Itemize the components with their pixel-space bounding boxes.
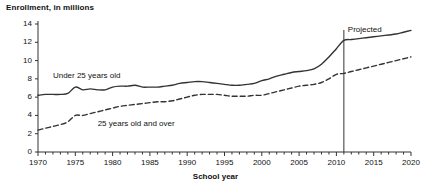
y-tick-label: 2 (14, 129, 32, 138)
y-tick-label: 8 (14, 74, 32, 83)
y-tick-label: 0 (14, 147, 32, 156)
x-tick-label: 1980 (98, 158, 128, 167)
x-tick-label: 1995 (210, 158, 240, 167)
x-tick-label: 2010 (321, 158, 351, 167)
series-label-0: Under 25 years old (53, 71, 121, 80)
series-line-1 (38, 57, 411, 130)
x-tick-label: 2005 (284, 158, 314, 167)
projected-label: Projected (348, 25, 382, 34)
enrollment-line-chart: Enrollment, in millions 02468101214 1970… (0, 0, 431, 191)
y-tick-label: 6 (14, 92, 32, 101)
x-tick-label: 1970 (23, 158, 53, 167)
series-layer (38, 30, 411, 130)
x-tick-label: 2020 (396, 158, 426, 167)
x-tick-label: 2000 (247, 158, 277, 167)
series-label-1: 25 years old and over (98, 119, 175, 128)
x-tick-label: 2015 (359, 158, 389, 167)
series-line-0 (38, 30, 411, 95)
y-tick-label: 4 (14, 110, 32, 119)
y-tick-label: 10 (14, 56, 32, 65)
x-axis-title: School year (0, 172, 431, 181)
x-tick-label: 1990 (172, 158, 202, 167)
y-tick-label: 12 (14, 37, 32, 46)
y-tick-label: 14 (14, 19, 32, 28)
x-tick-label: 1985 (135, 158, 165, 167)
x-tick-label: 1975 (60, 158, 90, 167)
